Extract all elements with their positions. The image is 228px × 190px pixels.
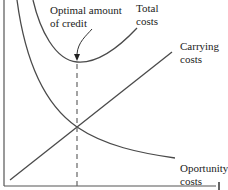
arrow-head-icon bbox=[74, 54, 80, 61]
total-label-line2: costs bbox=[136, 16, 158, 27]
carrying-label-line1: Carrying bbox=[180, 41, 219, 52]
total-label-line1: Total bbox=[136, 3, 158, 14]
optimal-label-line1: Optimal amount bbox=[50, 5, 122, 16]
opportunity-label-line2: costs bbox=[180, 176, 228, 187]
total-costs-label: Total costs bbox=[136, 3, 158, 27]
carrying-costs-label: Carrying costs bbox=[180, 41, 219, 65]
opportunity-costs-label: Oportunity costs bbox=[180, 163, 228, 187]
carrying-label-line2: costs bbox=[180, 54, 219, 65]
optimal-arrow-leader bbox=[77, 29, 92, 54]
optimal-label-line2: of credit bbox=[50, 18, 122, 29]
optimal-amount-label: Optimal amount of credit bbox=[50, 5, 122, 29]
opportunity-label-line1: Oportunity bbox=[180, 163, 228, 174]
credit-policy-diagram: Optimal amount of credit Total costs Car… bbox=[0, 0, 228, 190]
